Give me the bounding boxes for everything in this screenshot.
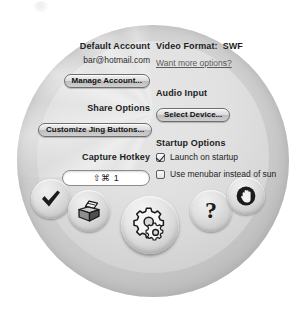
question-mark-icon: ? bbox=[200, 198, 222, 224]
svg-text:?: ? bbox=[205, 198, 217, 223]
capture-hotkey-label: Capture Hotkey bbox=[38, 151, 150, 163]
video-format-row: Video Format:SWF bbox=[156, 40, 286, 52]
help-button[interactable]: ? bbox=[190, 190, 232, 232]
gears-icon bbox=[130, 206, 170, 244]
launch-on-startup-row[interactable]: Launch on startup bbox=[156, 152, 286, 163]
share-options-label: Share Options bbox=[38, 102, 150, 114]
manage-account-button[interactable]: Manage Account... bbox=[64, 74, 150, 88]
preferences-left-column: Default Account bar@hotmail.com Manage A… bbox=[38, 40, 150, 186]
launch-on-startup-label: Launch on startup bbox=[170, 152, 238, 163]
capture-button[interactable] bbox=[31, 179, 71, 219]
preferences-right-column: Video Format:SWF Want more options? Audi… bbox=[156, 40, 286, 180]
quit-button[interactable] bbox=[227, 177, 265, 215]
preferences-panel: Default Account bar@hotmail.com Manage A… bbox=[0, 0, 303, 311]
default-account-value: bar@hotmail.com bbox=[38, 54, 150, 66]
select-device-button[interactable]: Select Device... bbox=[156, 108, 230, 122]
startup-options-label: Startup Options bbox=[156, 137, 286, 149]
launch-on-startup-checkbox[interactable] bbox=[156, 153, 165, 162]
want-more-options-link[interactable]: Want more options? bbox=[156, 57, 232, 69]
settings-button[interactable] bbox=[121, 196, 179, 254]
history-button[interactable] bbox=[68, 190, 110, 232]
stop-hand-icon bbox=[235, 185, 257, 207]
use-menubar-row[interactable]: Use menubar instead of sun bbox=[156, 169, 286, 180]
capture-hotkey-input[interactable]: ⇧⌘ 1 bbox=[62, 170, 150, 186]
use-menubar-label: Use menubar instead of sun bbox=[170, 169, 276, 180]
video-format-label: Video Format: bbox=[156, 41, 218, 51]
video-format-value: SWF bbox=[223, 41, 243, 51]
audio-input-label: Audio Input bbox=[156, 87, 286, 99]
default-account-label: Default Account bbox=[38, 40, 150, 52]
customize-jing-buttons-button[interactable]: Customize Jing Buttons... bbox=[38, 123, 152, 137]
checkmark-icon bbox=[40, 189, 62, 209]
history-box-icon bbox=[77, 200, 101, 223]
use-menubar-checkbox[interactable] bbox=[156, 170, 165, 179]
